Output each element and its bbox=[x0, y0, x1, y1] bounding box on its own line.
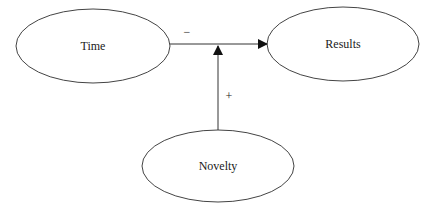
time-label: Time bbox=[81, 39, 106, 53]
node-results: Results bbox=[267, 7, 419, 81]
positive-sign: + bbox=[226, 89, 233, 103]
novelty-label: Novelty bbox=[199, 159, 238, 173]
node-novelty: Novelty bbox=[142, 130, 294, 202]
edge-time-results: − bbox=[170, 25, 267, 44]
edge-novelty-moderation: + bbox=[218, 46, 233, 130]
results-label: Results bbox=[325, 37, 361, 51]
negative-sign: − bbox=[184, 25, 191, 39]
moderation-diagram: Time Results Novelty − + bbox=[0, 0, 426, 212]
node-time: Time bbox=[16, 9, 170, 83]
